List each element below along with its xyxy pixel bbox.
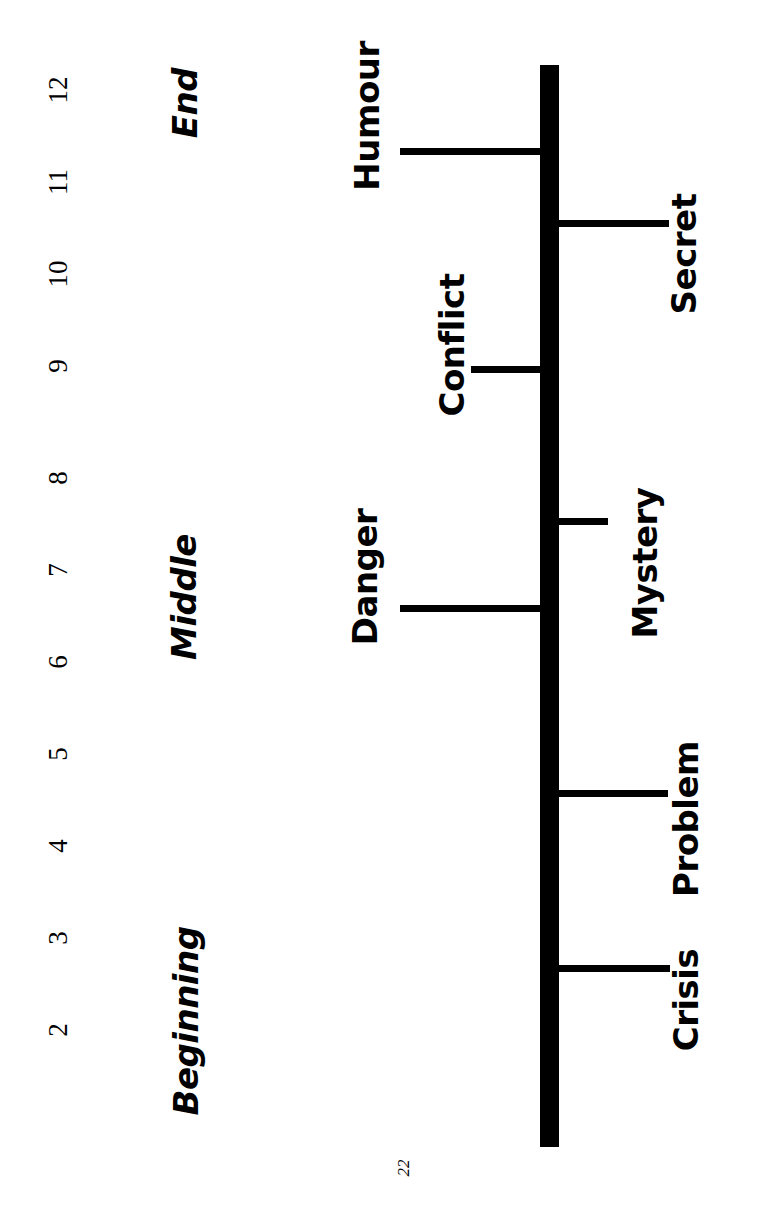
tick-mystery [558,518,608,525]
scale-number-10: 10 [45,261,72,288]
scale-number-3: 3 [45,931,72,945]
tick-problem [558,790,668,797]
scale-number-5: 5 [45,747,72,761]
page-number: 22 [395,1160,412,1177]
scanned-page: 12 11 10 9 8 7 6 5 4 3 2 End Middle Begi… [0,0,774,1217]
event-label-conflict: Conflict [435,273,469,416]
scale-number-7: 7 [45,563,72,577]
scale-number-9: 9 [45,359,72,373]
tick-conflict [471,366,541,373]
scale-number-8: 8 [45,471,72,485]
scale-number-11: 11 [45,169,72,195]
scale-number-12: 12 [45,77,72,104]
section-label-end: End [168,68,202,138]
event-label-problem: Problem [669,741,703,897]
event-label-danger: Danger [348,509,382,646]
event-label-humour: Humour [350,41,384,190]
event-label-mystery: Mystery [628,488,662,639]
scale-number-4: 4 [45,839,72,853]
event-label-secret: Secret [667,194,701,315]
section-label-beginning: Beginning [169,926,203,1115]
section-label-middle: Middle [167,534,201,660]
tick-crisis [558,965,670,972]
scale-number-2: 2 [45,1023,72,1037]
tick-danger [400,605,541,612]
timeline-axis-bar [540,65,559,1147]
tick-secret [558,220,669,227]
scale-number-6: 6 [45,655,72,669]
event-label-crisis: Crisis [669,949,703,1052]
tick-humour [400,148,541,155]
